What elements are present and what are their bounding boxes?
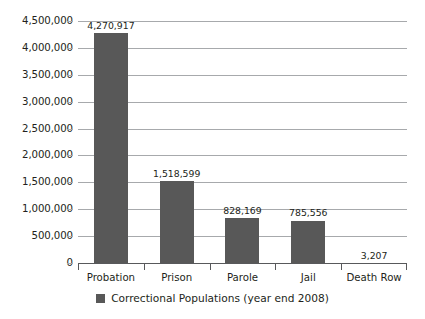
y-axis-tick-mark: [67, 102, 73, 103]
y-axis-tick-mark: [67, 263, 73, 264]
legend-swatch-icon: [96, 294, 105, 303]
bar: [94, 33, 128, 263]
y-axis-tick-mark: [67, 21, 73, 22]
bar-group: 828,169: [210, 21, 276, 263]
x-axis-tick-label: Probation: [87, 272, 135, 284]
x-axis-labels: ProbationPrisonParoleJailDeath Row: [78, 272, 407, 288]
x-axis-tick-mark: [406, 264, 407, 270]
y-axis-labels: 0500,0001,000,0001,500,0002,000,0002,500…: [0, 21, 73, 263]
bar-chart: 0500,0001,000,0001,500,0002,000,0002,500…: [0, 0, 425, 319]
x-axis-tick-mark: [341, 264, 342, 270]
x-axis-tick-label: Prison: [161, 272, 192, 284]
y-axis-tick-label: 2,500,000: [1, 124, 73, 134]
y-axis-tick-label: 1,500,000: [1, 177, 73, 187]
x-axis-tick-mark: [144, 264, 145, 270]
x-axis-tick-mark: [78, 264, 79, 270]
x-axis-tick-label: Death Row: [346, 272, 401, 284]
y-axis-tick-label: 3,500,000: [1, 70, 73, 80]
bar: [225, 218, 259, 263]
bar-value-label: 1,518,599: [153, 169, 200, 178]
x-axis-tick-mark: [275, 264, 276, 270]
y-axis-tick-label: 500,000: [1, 231, 73, 241]
x-axis-ticks: [78, 264, 407, 271]
bar-group: 4,270,917: [78, 21, 144, 263]
bar-value-label: 3,207: [361, 251, 388, 260]
bars-layer: 4,270,9171,518,599828,169785,5563,207: [78, 21, 407, 263]
bar-group: 1,518,599: [144, 21, 210, 263]
y-axis-tick-mark: [67, 129, 73, 130]
bar-value-label: 828,169: [223, 206, 261, 215]
y-axis-tick-label: 4,500,000: [1, 16, 73, 26]
x-axis-tick-mark: [210, 264, 211, 270]
bar: [160, 181, 194, 263]
bar-group: 785,556: [275, 21, 341, 263]
y-axis-tick-mark: [67, 48, 73, 49]
y-axis-tick-label: 2,000,000: [1, 150, 73, 160]
y-axis-tick-mark: [67, 209, 73, 210]
legend-label: Correctional Populations (year end 2008): [111, 292, 329, 304]
bar-value-label: 785,556: [289, 208, 327, 217]
y-axis-tick-label: 4,000,000: [1, 43, 73, 53]
y-axis-tick-label: 3,000,000: [1, 97, 73, 107]
y-axis-tick-label: 1,000,000: [1, 204, 73, 214]
y-axis-tick-mark: [67, 182, 73, 183]
bar-group: 3,207: [341, 21, 407, 263]
y-axis-tick-mark: [67, 155, 73, 156]
y-axis-tick-mark: [67, 236, 73, 237]
x-axis-tick-label: Parole: [227, 272, 258, 284]
x-axis-tick-label: Jail: [301, 272, 316, 284]
y-axis-tick-label: 0: [1, 258, 73, 268]
chart-legend: Correctional Populations (year end 2008): [0, 292, 425, 304]
y-axis-tick-mark: [67, 75, 73, 76]
bar: [291, 221, 325, 263]
bar-value-label: 4,270,917: [87, 21, 134, 30]
